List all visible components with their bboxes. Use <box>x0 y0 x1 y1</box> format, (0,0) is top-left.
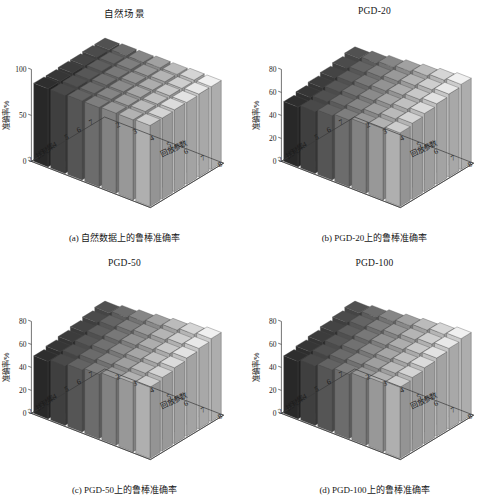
svg-text:准确率/%: 准确率/% <box>1 100 11 130</box>
panel-c-title: PGD-50 <box>0 258 249 268</box>
panel-d-title: PGD-100 <box>250 258 499 268</box>
svg-text:40: 40 <box>269 363 277 372</box>
svg-text:8: 8 <box>216 160 224 170</box>
svg-text:0: 0 <box>273 409 277 418</box>
panel-b-axes: 020406080准确率/%234567扰动集2345678回放参数 <box>250 18 499 213</box>
panel-a: 自然场景 050100准确率/%234567扰动集2345678回放参数 (a)… <box>0 0 249 249</box>
panel-c-svg: 020406080准确率/%234567扰动集2345678回放参数 <box>0 270 249 465</box>
panel-c: PGD-50 020406080准确率/%234567扰动集2345678回放参… <box>0 252 249 499</box>
svg-text:40: 40 <box>269 111 277 120</box>
panel-b-svg: 020406080准确率/%234567扰动集2345678回放参数 <box>250 18 499 213</box>
svg-text:80: 80 <box>269 317 277 326</box>
panel-a-svg: 050100准确率/%234567扰动集2345678回放参数 <box>0 18 249 213</box>
svg-text:准确率/%: 准确率/% <box>251 100 261 130</box>
svg-text:8: 8 <box>466 412 474 422</box>
svg-text:8: 8 <box>216 412 224 422</box>
svg-text:2: 2 <box>276 154 283 164</box>
svg-text:20: 20 <box>269 386 277 395</box>
svg-text:准确率/%: 准确率/% <box>251 352 261 382</box>
svg-text:准确率/%: 准确率/% <box>1 352 11 382</box>
svg-text:40: 40 <box>19 363 27 372</box>
svg-text:2: 2 <box>276 406 283 416</box>
svg-text:60: 60 <box>269 88 277 97</box>
svg-text:20: 20 <box>269 134 277 143</box>
panel-a-axes: 050100准确率/%234567扰动集2345678回放参数 <box>0 18 249 213</box>
svg-text:80: 80 <box>19 317 27 326</box>
svg-text:0: 0 <box>23 157 27 166</box>
panel-d-axes: 020406080准确率/%234567扰动集2345678回放参数 <box>250 270 499 465</box>
svg-text:60: 60 <box>269 340 277 349</box>
svg-text:80: 80 <box>269 65 277 74</box>
panel-d-caption: (d) PGD-100上的鲁棒准确率 <box>250 483 499 496</box>
panel-d: PGD-100 020406080准确率/%234567扰动集2345678回放… <box>250 252 499 499</box>
panel-c-caption: (c) PGD-50上的鲁棒准确率 <box>0 483 249 496</box>
figure-3d-bar-grid: 自然场景 050100准确率/%234567扰动集2345678回放参数 (a)… <box>0 0 499 499</box>
svg-text:0: 0 <box>23 409 27 418</box>
panel-a-caption: (a) 自然数据上的鲁棒准确率 <box>0 231 249 244</box>
svg-text:2: 2 <box>26 154 33 164</box>
panel-b-title: PGD-20 <box>250 6 499 16</box>
panel-b: PGD-20 020406080准确率/%234567扰动集2345678回放参… <box>250 0 499 249</box>
svg-text:8: 8 <box>466 160 474 170</box>
svg-text:50: 50 <box>19 111 27 120</box>
svg-text:0: 0 <box>273 157 277 166</box>
panel-b-caption: (b) PGD-20上的鲁棒准确率 <box>250 231 499 244</box>
svg-text:2: 2 <box>26 406 33 416</box>
svg-text:100: 100 <box>15 65 27 74</box>
svg-text:20: 20 <box>19 386 27 395</box>
panel-d-svg: 020406080准确率/%234567扰动集2345678回放参数 <box>250 270 499 465</box>
svg-text:60: 60 <box>19 340 27 349</box>
panel-c-axes: 020406080准确率/%234567扰动集2345678回放参数 <box>0 270 249 465</box>
